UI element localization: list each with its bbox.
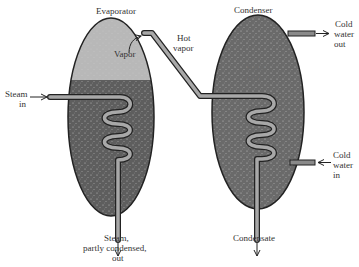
steam-in-label-line1: Steam — [5, 89, 28, 99]
evaporator-title: Evaporator — [96, 6, 136, 16]
cold-water-in-pipe — [290, 160, 331, 165]
steam-out-label-line3: out — [112, 253, 124, 263]
condenser-title: Condenser — [234, 5, 273, 15]
cold-water-in-label-line2: water — [333, 160, 353, 170]
cold-water-inside-label-line1: Cold — [247, 62, 265, 72]
steam-in-label-line2: in — [19, 99, 26, 109]
cold-water-out-label-line1: Cold — [335, 19, 353, 29]
cold-water-out-label-line3: out — [334, 39, 346, 49]
cold-water-in-label-line3: in — [333, 170, 340, 180]
condensate-label: Condensate — [233, 233, 275, 243]
cold-water-inside-label-line2: water — [245, 72, 265, 82]
hot-vapor-label-line1: Hot — [177, 33, 191, 43]
cold-water-out-pipe — [288, 31, 329, 36]
vapor-label: Vapor — [114, 49, 136, 59]
steam-out-label-line1: Steam, — [104, 233, 129, 243]
hot-vapor-label-line2: vapor — [173, 43, 194, 53]
steam-out-label-line2: partly condensed, — [83, 243, 146, 253]
cold-water-out-label-line2: water — [334, 29, 354, 39]
cold-water-in-label-line1: Cold — [333, 150, 351, 160]
